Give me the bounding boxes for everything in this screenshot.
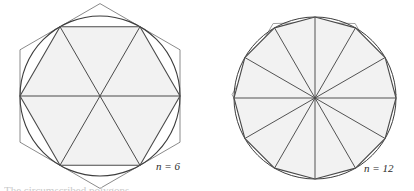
label-n-12: n = 12	[364, 162, 394, 174]
caption-fragment: The circumscribed polygons	[4, 184, 194, 191]
panel-hexagon: n = 6	[20, 4, 180, 189]
polygon-figure-svg: n = 6	[0, 0, 414, 191]
label-n-6: n = 6	[156, 160, 180, 172]
figure-container: n = 6	[0, 0, 414, 191]
panel-dodecagon: n = 12	[232, 17, 396, 179]
dodecagon-spokes	[234, 17, 396, 179]
